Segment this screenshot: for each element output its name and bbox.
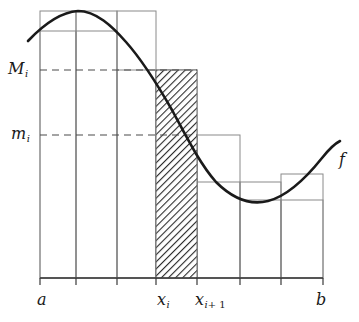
level-label-lower-bound: mi xyxy=(11,126,30,144)
upper-rectangle xyxy=(40,31,76,278)
lower-rectangle xyxy=(40,11,76,278)
curve-label-f: f xyxy=(339,152,345,168)
upper-rectangle xyxy=(117,11,156,278)
subscript-i: i xyxy=(166,299,170,310)
axis-label-a: a xyxy=(37,292,47,308)
lower-rectangle xyxy=(76,31,117,278)
subscript-plus-one: + 1 xyxy=(208,299,226,310)
partition-ticks-group xyxy=(40,278,323,285)
upper-rectangle xyxy=(281,174,323,278)
plot-canvas xyxy=(0,0,359,322)
lower-rectangle xyxy=(117,70,156,278)
subscript-i: i xyxy=(26,133,30,144)
subscript-i: i xyxy=(24,68,28,79)
axis-label-x-i-plus-1: xi+ 1 xyxy=(195,292,226,310)
highlighted-interval-rectangle xyxy=(156,70,197,278)
axis-label-b: b xyxy=(316,292,326,308)
lower-rectangle xyxy=(240,200,281,278)
upper-rectangle xyxy=(197,135,240,278)
level-label-upper-bound: Mi xyxy=(8,61,28,79)
lower-rectangle xyxy=(281,200,323,278)
upper-rectangle xyxy=(76,11,117,278)
upper-rectangle xyxy=(240,182,281,278)
riemann-darboux-sum-figure: a xi xi+ 1 b Mi mi f xyxy=(0,0,359,322)
axis-label-x-i: xi xyxy=(157,292,170,310)
